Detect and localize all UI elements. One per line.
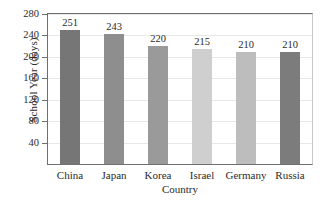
bar[interactable] <box>148 46 168 164</box>
bar-slot: 215 <box>180 14 224 164</box>
y-tick-label: 280 <box>0 9 39 19</box>
bar-slot: 210 <box>224 14 268 164</box>
bar-value-label: 215 <box>194 36 210 47</box>
bar-value-label: 251 <box>62 17 78 28</box>
x-tick-label: Germany <box>226 169 267 181</box>
bar-value-label: 243 <box>106 21 122 32</box>
x-axis-title: Country <box>47 183 313 195</box>
x-tick-label: Japan <box>101 169 126 181</box>
y-tick-label: 80 <box>0 116 39 126</box>
bar-slot: 210 <box>268 14 312 164</box>
bar[interactable] <box>192 49 212 164</box>
bar-value-label: 210 <box>238 39 254 50</box>
x-tick-label: Korea <box>145 169 172 181</box>
bar-slot: 251 <box>48 14 92 164</box>
bar[interactable] <box>236 52 256 165</box>
bars-layer: 251243220215210210 <box>48 14 312 164</box>
bar[interactable] <box>60 30 80 164</box>
y-tick-label: 120 <box>0 95 39 105</box>
x-tick-label: Russia <box>275 169 304 181</box>
bar[interactable] <box>280 52 300 165</box>
bar-value-label: 210 <box>282 39 298 50</box>
bar-value-label: 220 <box>150 33 166 44</box>
x-tick-label: China <box>57 169 83 181</box>
y-tick-label: 40 <box>0 138 39 148</box>
y-tick-label: 200 <box>0 52 39 62</box>
bar-slot: 243 <box>92 14 136 164</box>
x-tick-label: Israel <box>190 169 214 181</box>
y-tick-label: 240 <box>0 30 39 40</box>
bar-chart: School Year (days) 4080120160200240280 2… <box>0 0 327 201</box>
bar-slot: 220 <box>136 14 180 164</box>
y-tick-label: 160 <box>0 73 39 83</box>
bar[interactable] <box>104 34 124 164</box>
